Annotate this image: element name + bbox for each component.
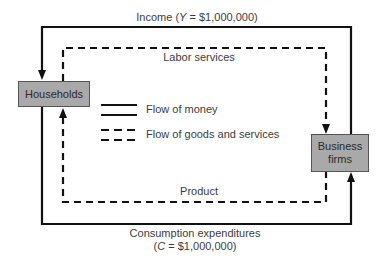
arrow-up-icon xyxy=(59,108,67,118)
goods-flow-loop xyxy=(59,48,330,202)
arrow-down-icon xyxy=(38,70,46,80)
arrow-down-icon xyxy=(322,124,330,134)
legend-money-label: Flow of money xyxy=(146,103,218,115)
product-label: Product xyxy=(180,185,218,197)
households-node: Households xyxy=(18,81,90,107)
business-firms-node: Business firms xyxy=(311,134,369,172)
legend-goods-icon xyxy=(101,130,137,140)
income-label: Income (Y = $1,000,000) xyxy=(136,11,257,23)
consumption-value-label: (C = $1,000,000) xyxy=(154,240,237,252)
arrow-up-icon xyxy=(347,172,355,182)
business-firms-line1: Business xyxy=(318,140,363,153)
legend-goods-label: Flow of goods and services xyxy=(146,128,279,140)
labor-services-label: Labor services xyxy=(163,51,235,63)
consumption-label: Consumption expenditures xyxy=(130,227,261,239)
legend-money-icon xyxy=(101,105,137,115)
business-firms-line2: firms xyxy=(328,153,352,166)
